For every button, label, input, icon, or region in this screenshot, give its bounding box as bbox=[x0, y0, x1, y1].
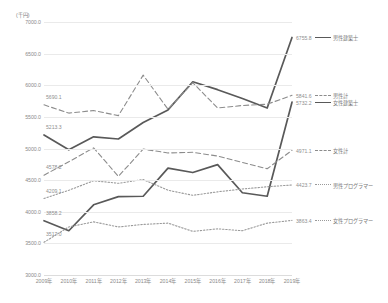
x-axis-tick-label: 2018年 bbox=[259, 277, 276, 284]
legend-swatch-icon-0 bbox=[315, 34, 331, 40]
x-axis-tick-label: 2014年 bbox=[160, 277, 177, 284]
y-axis-tick-label: 6500.0 bbox=[25, 51, 41, 57]
gridline bbox=[44, 22, 292, 23]
gridline bbox=[44, 212, 292, 213]
series-start-label-0: 5213.3 bbox=[46, 124, 62, 130]
series-end-label-1: 5841.6 bbox=[296, 92, 313, 98]
series-start-label-3: 4578.2 bbox=[46, 164, 62, 170]
legend-swatch-icon-4 bbox=[315, 182, 331, 188]
legend-item-4[interactable]: 4423.7男性プログラマー bbox=[296, 181, 373, 188]
y-axis-tick-label: 7000.0 bbox=[25, 19, 41, 25]
legend-item-5[interactable]: 3863.4女性プログラマー bbox=[296, 217, 373, 224]
y-axis-unit-label: (千円) bbox=[16, 11, 29, 18]
legend-label-0: 男性建築士 bbox=[333, 34, 358, 41]
series-line-3 bbox=[44, 148, 292, 176]
legend-label-2: 女性建築士 bbox=[333, 99, 358, 106]
x-axis-tick-label: 2019年 bbox=[284, 277, 301, 284]
y-axis-tick-label: 4000.0 bbox=[25, 209, 41, 215]
legend-swatch-icon-1 bbox=[315, 92, 331, 98]
x-axis-tick-label: 2010年 bbox=[61, 277, 78, 284]
series-line-5 bbox=[44, 220, 292, 242]
y-axis-tick-label: 6000.0 bbox=[25, 82, 41, 88]
legend-swatch-icon-2 bbox=[315, 99, 331, 105]
x-axis-tick-label: 2012年 bbox=[110, 277, 127, 284]
legend-swatch-icon-5 bbox=[315, 217, 331, 223]
x-axis-tick-label: 2016年 bbox=[209, 277, 226, 284]
gridline bbox=[44, 54, 292, 55]
gridline bbox=[44, 275, 292, 276]
gridline bbox=[44, 243, 292, 244]
gridline bbox=[44, 85, 292, 86]
legend-label-3: 女性計 bbox=[333, 147, 348, 154]
series-line-4 bbox=[44, 179, 292, 198]
x-axis-tick-label: 2015年 bbox=[185, 277, 202, 284]
series-start-label-2: 3858.2 bbox=[46, 210, 62, 216]
series-start-label-4: 4209.1 bbox=[46, 188, 62, 194]
legend-item-3[interactable]: 4971.1女性計 bbox=[296, 147, 348, 154]
x-axis-tick-label: 2011年 bbox=[86, 277, 102, 284]
legend-item-0[interactable]: 6755.8男性建築士 bbox=[296, 34, 358, 41]
legend-swatch-icon-3 bbox=[315, 147, 331, 153]
plot-area: 3000.03500.04000.04500.05000.05500.06000… bbox=[44, 22, 292, 275]
chart-legend: 6755.8男性建築士5841.6男性計5732.2女性建築士4971.1女性計… bbox=[296, 22, 388, 275]
line-chart: (千円) 3000.03500.04000.04500.05000.05500.… bbox=[0, 0, 388, 303]
series-end-label-3: 4971.1 bbox=[296, 147, 313, 153]
y-axis-tick-label: 5000.0 bbox=[25, 146, 41, 152]
series-start-label-1: 5690.1 bbox=[46, 94, 62, 100]
x-axis-tick-label: 2017年 bbox=[234, 277, 251, 284]
y-axis-tick-label: 3500.0 bbox=[25, 240, 41, 246]
gridline bbox=[44, 180, 292, 181]
legend-item-2[interactable]: 5732.2女性建築士 bbox=[296, 99, 358, 106]
legend-label-4: 男性プログラマー bbox=[333, 181, 373, 188]
series-end-label-5: 3863.4 bbox=[296, 217, 313, 223]
series-start-label-5: 3517.0 bbox=[46, 231, 62, 237]
x-axis-tick-label: 2009年 bbox=[36, 277, 53, 284]
gridline bbox=[44, 149, 292, 150]
series-end-label-4: 4423.7 bbox=[296, 182, 313, 188]
y-axis-tick-label: 4500.0 bbox=[25, 177, 41, 183]
gridline bbox=[44, 117, 292, 118]
series-end-label-2: 5732.2 bbox=[296, 99, 313, 105]
y-axis-tick-label: 5500.0 bbox=[25, 114, 41, 120]
x-axis-tick-label: 2013年 bbox=[135, 277, 152, 284]
legend-label-5: 女性プログラマー bbox=[333, 217, 373, 224]
series-end-label-0: 6755.8 bbox=[296, 34, 313, 40]
